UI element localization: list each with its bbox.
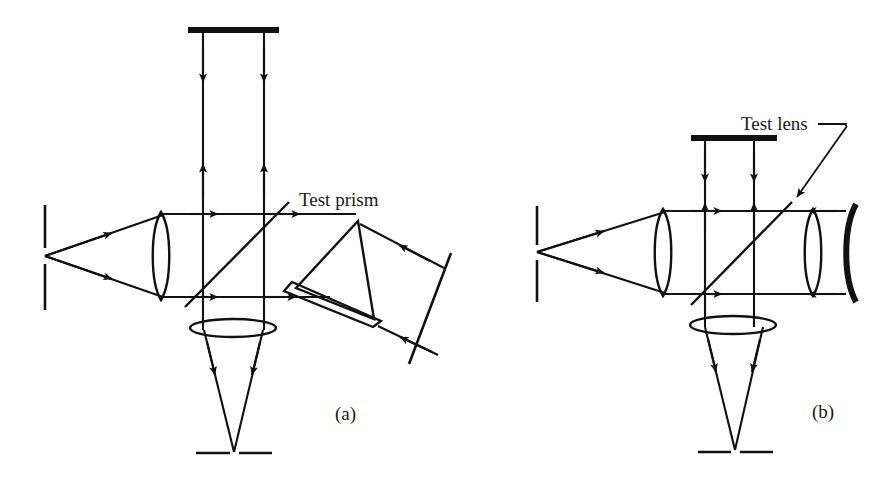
imaging-lens-b xyxy=(690,316,776,334)
diverging-rays-a xyxy=(45,215,163,297)
panel-b: Test lens (b) xyxy=(537,113,856,452)
panel-a: Test prism (a) xyxy=(45,30,451,453)
collimating-lens-b xyxy=(655,209,672,296)
test-lens-leader xyxy=(797,124,847,197)
test-lens-label: Test lens xyxy=(741,113,808,134)
return-mirror-a xyxy=(409,253,451,364)
beamsplitter-b[interactable] xyxy=(691,202,792,305)
diverging-rays-b xyxy=(537,212,665,293)
concave-mirror-b xyxy=(846,204,856,302)
test-prism-a[interactable] xyxy=(284,221,381,327)
test-lens-b[interactable] xyxy=(805,209,822,296)
collimating-lens-a xyxy=(153,212,170,300)
panel-a-caption: (a) xyxy=(335,403,356,425)
figure-canvas: Test prism (a) xyxy=(0,0,893,485)
beamsplitter-a[interactable] xyxy=(185,202,289,307)
optical-figure: Test prism (a) xyxy=(0,0,893,485)
reference-arm-a xyxy=(203,30,264,330)
test-prism-label: Test prism xyxy=(299,189,379,210)
converging-rays-b xyxy=(705,327,763,450)
panel-b-caption: (b) xyxy=(812,401,834,423)
prism-return-rays-a xyxy=(360,224,444,355)
reference-arm-b xyxy=(705,138,754,327)
converging-rays-a xyxy=(204,330,263,452)
